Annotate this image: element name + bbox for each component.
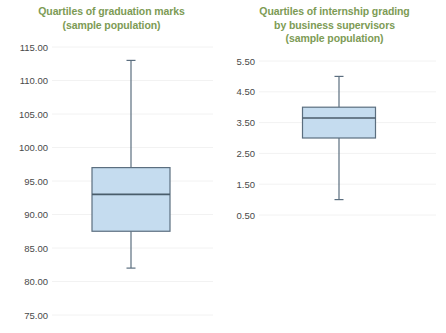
box-plot-figure: Quartiles of graduation marks (sample po… xyxy=(0,0,446,333)
plot-area-graduation-marks: 115.00110.00105.00100.0095.0090.0085.008… xyxy=(0,0,223,333)
y-axis-tick-label: 5.50 xyxy=(237,56,256,67)
y-axis-tick-label: 90.00 xyxy=(24,209,48,220)
chart-panel-graduation-marks: Quartiles of graduation marks (sample po… xyxy=(0,0,223,333)
box-plot-series xyxy=(303,76,376,199)
y-axis-tick-label: 100.00 xyxy=(19,142,48,153)
y-axis-tick-label: 85.00 xyxy=(24,243,48,254)
y-axis-tick-label: 95.00 xyxy=(24,176,48,187)
y-axis-tick-label: 105.00 xyxy=(19,109,48,120)
plot-area-internship-grading: 5.504.503.502.501.500.50 xyxy=(223,0,446,333)
chart-panel-internship-grading: Quartiles of internship grading by busin… xyxy=(223,0,446,333)
interquartile-box xyxy=(92,168,170,232)
y-axis-tick-label: 1.50 xyxy=(237,179,256,190)
interquartile-box xyxy=(303,107,376,138)
y-axis-tick-label: 0.50 xyxy=(237,210,256,221)
box-plot-series xyxy=(92,60,170,268)
y-axis-tick-label: 115.00 xyxy=(20,42,48,53)
y-axis-tick-label: 3.50 xyxy=(237,117,256,128)
y-axis-tick-label: 4.50 xyxy=(237,86,256,97)
y-axis-tick-label: 2.50 xyxy=(237,148,256,159)
y-axis-tick-label: 110.00 xyxy=(20,75,48,86)
y-axis-tick-label: 75.00 xyxy=(24,310,48,321)
y-axis-tick-label: 80.00 xyxy=(24,276,48,287)
